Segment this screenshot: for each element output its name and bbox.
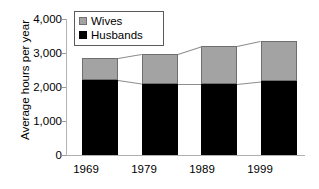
bar-segment-husbands-1969 xyxy=(82,80,118,155)
bar-segment-wives-1999 xyxy=(261,41,297,81)
connector-total-0 xyxy=(118,54,142,59)
legend-swatch-wives-icon xyxy=(79,17,87,25)
y-tick-label-1000: 1,000 xyxy=(16,116,62,127)
x-tick-label-1979: 1979 xyxy=(114,163,174,175)
y-tick-label-4000: 4,000 xyxy=(16,14,62,25)
chart-legend: Wives Husbands xyxy=(74,11,164,46)
y-tick-label-3000: 3,000 xyxy=(16,48,62,59)
legend-item-wives: Wives xyxy=(79,14,159,28)
bar-segment-wives-1979 xyxy=(142,54,178,84)
chart-container: Average hours per year 4,000 3,000 2,000… xyxy=(0,0,319,189)
x-tick-label-1989: 1989 xyxy=(172,163,232,175)
legend-label-wives: Wives xyxy=(91,15,122,27)
y-tick-label-0: 0 xyxy=(16,150,62,161)
connector-total-2 xyxy=(237,41,261,47)
connector-husbands-0 xyxy=(118,80,142,84)
x-tick-label-1969: 1969 xyxy=(56,163,116,175)
bar-segment-wives-1989 xyxy=(201,46,237,83)
bar-segment-husbands-1999 xyxy=(261,81,297,155)
bar-segment-wives-1969 xyxy=(82,58,118,80)
connector-total-1 xyxy=(177,46,201,55)
bar-1969 xyxy=(82,58,118,155)
connector-husbands-1 xyxy=(178,84,202,85)
bar-1999 xyxy=(261,41,297,155)
y-axis-tick-labels: 4,000 3,000 2,000 1,000 0 xyxy=(14,0,62,189)
y-tick-label-2000: 2,000 xyxy=(16,82,62,93)
bar-1979 xyxy=(142,54,178,155)
legend-label-husbands: Husbands xyxy=(91,29,143,41)
bar-segment-husbands-1989 xyxy=(201,84,237,155)
connector-husbands-2 xyxy=(237,81,261,84)
x-tick-label-1999: 1999 xyxy=(230,163,290,175)
bar-1989 xyxy=(201,46,237,155)
x-axis-line xyxy=(66,155,305,156)
legend-swatch-husbands-icon xyxy=(79,31,87,39)
legend-item-husbands: Husbands xyxy=(79,28,159,42)
bar-segment-husbands-1979 xyxy=(142,84,178,155)
